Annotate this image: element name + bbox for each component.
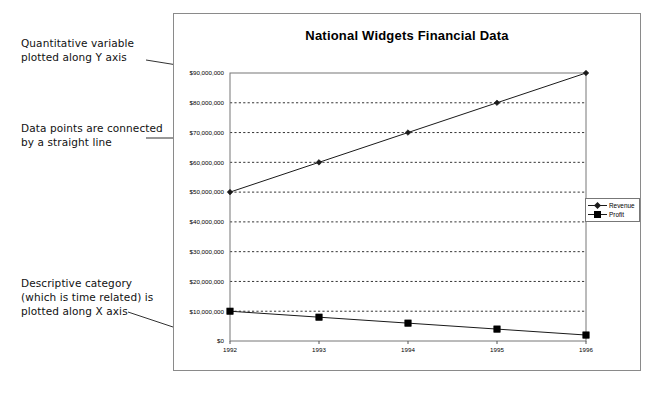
data-point-profit — [227, 308, 233, 314]
profit-marker-icon — [588, 210, 607, 219]
data-point-revenue — [494, 100, 500, 106]
legend-label-revenue: Revenue — [607, 202, 635, 209]
data-point-profit — [494, 326, 500, 332]
annotation-data-points: Data points are connected by a straight … — [21, 121, 163, 149]
x-tick-label: 1993 — [312, 346, 326, 353]
y-tick-label: $60,000,000 — [190, 159, 225, 166]
x-tick-label: 1995 — [490, 346, 504, 353]
data-point-revenue — [227, 189, 233, 195]
y-tick-label: $80,000,000 — [190, 99, 225, 106]
chart-frame: National Widgets Financial Data $90,000,… — [173, 13, 641, 371]
y-tick-label: $90,000,000 — [190, 69, 225, 76]
annotation-x-axis: Descriptive category (which is time rela… — [21, 276, 153, 318]
data-point-profit — [405, 320, 411, 326]
y-tick-label: $0 — [217, 337, 224, 344]
y-tick-label: $70,000,000 — [190, 129, 225, 136]
annotation-y-axis: Quantitative variable plotted along Y ax… — [21, 36, 134, 64]
y-tick-label: $40,000,000 — [190, 218, 225, 225]
y-tick-label: $30,000,000 — [190, 248, 225, 255]
data-point-revenue — [405, 130, 411, 136]
y-tick-label: $50,000,000 — [190, 188, 225, 195]
x-tick-label: 1996 — [579, 346, 593, 353]
revenue-marker-icon — [588, 201, 607, 210]
data-point-revenue — [316, 160, 322, 166]
x-tick-label: 1992 — [223, 346, 237, 353]
plot-area-border — [230, 73, 586, 341]
data-point-profit — [316, 314, 322, 320]
chart-legend: Revenue Profit — [585, 198, 640, 222]
legend-item-profit[interactable]: Profit — [588, 210, 635, 219]
y-tick-label: $10,000,000 — [190, 308, 225, 315]
legend-label-profit: Profit — [607, 211, 624, 218]
legend-item-revenue[interactable]: Revenue — [588, 201, 635, 210]
x-tick-label: 1994 — [401, 346, 415, 353]
line-chart-plot: $90,000,000$80,000,000$70,000,000$60,000… — [174, 14, 642, 372]
data-point-revenue — [583, 70, 589, 76]
data-point-profit — [583, 332, 589, 338]
y-tick-label: $20,000,000 — [190, 278, 225, 285]
